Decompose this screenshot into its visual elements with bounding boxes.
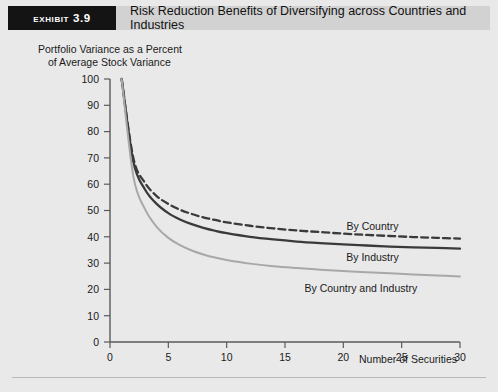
footer-divider bbox=[12, 377, 486, 378]
line-chart: Portfolio Variance as a Percent of Avera… bbox=[0, 36, 498, 366]
exhibit-title: Risk Reduction Benefits of Diversifying … bbox=[116, 6, 490, 30]
x-tick-label: 5 bbox=[165, 351, 171, 363]
y-tick-label: 0 bbox=[93, 336, 99, 348]
y-tick-label: 70 bbox=[87, 152, 99, 164]
y-axis-ticks: 0102030405060708090100 bbox=[81, 73, 110, 348]
y-axis-title-line1: Portfolio Variance as a Percent bbox=[38, 43, 182, 55]
y-tick-label: 80 bbox=[87, 125, 99, 137]
x-tick-label: 0 bbox=[107, 351, 113, 363]
y-tick-label: 20 bbox=[87, 283, 99, 295]
series-label-by-country-and-industry: By Country and Industry bbox=[305, 282, 418, 294]
exhibit-number-tag: Exhibit 3.9 bbox=[8, 6, 116, 30]
y-tick-label: 50 bbox=[87, 204, 99, 216]
y-tick-label: 100 bbox=[81, 73, 99, 85]
y-axis-title-line2: of Average Stock Variance bbox=[48, 56, 171, 68]
x-tick-label: 20 bbox=[337, 351, 349, 363]
series-label-by-country: By Country bbox=[347, 220, 400, 232]
chart-container: Portfolio Variance as a Percent of Avera… bbox=[0, 36, 498, 366]
x-tick-label: 15 bbox=[279, 351, 291, 363]
y-tick-label: 30 bbox=[87, 257, 99, 269]
y-tick-label: 10 bbox=[87, 310, 99, 322]
x-axis-title: Number of Securities bbox=[359, 353, 457, 365]
series-lines bbox=[122, 79, 460, 277]
y-tick-label: 90 bbox=[87, 99, 99, 111]
y-tick-label: 60 bbox=[87, 178, 99, 190]
series-line-by-industry bbox=[122, 79, 460, 249]
x-tick-label: 10 bbox=[221, 351, 233, 363]
exhibit-header: Exhibit 3.9 Risk Reduction Benefits of D… bbox=[8, 6, 490, 30]
series-label-by-industry: By Industry bbox=[346, 251, 399, 263]
y-tick-label: 40 bbox=[87, 231, 99, 243]
